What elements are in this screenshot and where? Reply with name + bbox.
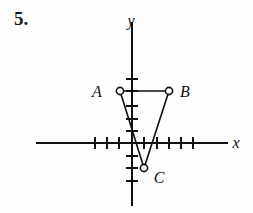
- coordinate-plane: A B C y x: [0, 0, 253, 213]
- point-label-b: B: [180, 83, 190, 100]
- point-marker-c: [140, 164, 147, 171]
- point-marker-b: [165, 87, 172, 94]
- x-axis-label: x: [231, 134, 239, 151]
- point-marker-a: [116, 87, 123, 94]
- point-label-c: C: [154, 169, 165, 186]
- y-axis-label: y: [125, 12, 135, 30]
- point-label-a: A: [91, 83, 102, 100]
- worksheet-figure-page: 5.: [0, 0, 253, 213]
